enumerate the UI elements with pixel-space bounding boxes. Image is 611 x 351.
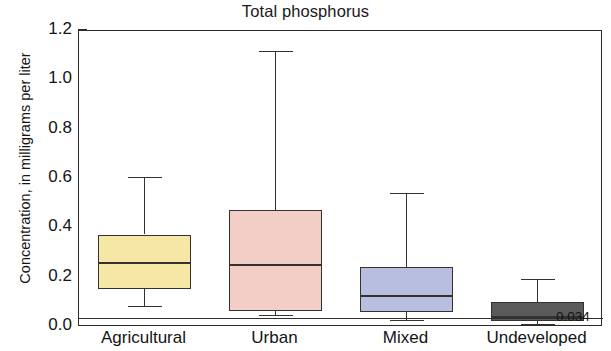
- whisker-upper-cap: [128, 177, 162, 178]
- x-tick-label: Undeveloped: [486, 328, 586, 348]
- whisker-upper-stem: [275, 52, 276, 210]
- x-tick-label: Mixed: [383, 328, 428, 348]
- chart-title: Total phosphorus: [0, 2, 611, 21]
- box-plot-median: [98, 262, 191, 264]
- whisker-lower-stem: [144, 289, 145, 308]
- whisker-upper-cap: [390, 193, 424, 194]
- reference-line: [79, 318, 603, 319]
- whisker-upper-cap: [521, 279, 555, 280]
- y-tick-label: 0.8: [30, 118, 72, 138]
- y-tick-label: 0.6: [30, 167, 72, 187]
- y-tick-label: 0.2: [30, 266, 72, 286]
- whisker-upper-stem: [144, 178, 145, 235]
- whisker-lower-cap: [259, 315, 293, 316]
- plot-content: [79, 31, 601, 325]
- y-tick-label: 1.0: [30, 68, 72, 88]
- whisker-lower-cap: [128, 306, 162, 307]
- box-plot-median: [360, 295, 453, 297]
- plot-area: [78, 30, 602, 326]
- box-plot-median: [229, 264, 322, 266]
- x-tick-label: Agricultural: [101, 328, 186, 348]
- reference-line-label: 0.034: [556, 309, 590, 324]
- box-plot-box: [229, 210, 322, 311]
- whisker-upper-stem: [406, 194, 407, 267]
- whisker-upper-cap: [259, 51, 293, 52]
- whisker-lower-cap: [521, 324, 555, 325]
- box-plot-box: [360, 267, 453, 313]
- whisker-upper-stem: [537, 280, 538, 302]
- y-tick-label: 0.0: [30, 315, 72, 335]
- whisker-lower-cap: [390, 320, 424, 321]
- y-tick-label: 0.4: [30, 216, 72, 236]
- x-tick-label: Urban: [251, 328, 297, 348]
- y-tick-label: 1.2: [30, 19, 72, 39]
- chart-figure: Total phosphorus Concentration, in milli…: [0, 0, 611, 351]
